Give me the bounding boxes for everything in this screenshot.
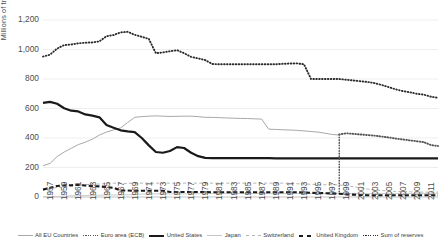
x-tick-label: 1967 bbox=[117, 182, 126, 200]
x-tick-label: 2007 bbox=[399, 182, 408, 200]
x-tick-label: 1985 bbox=[244, 182, 253, 200]
x-tick-label: 1973 bbox=[159, 182, 168, 200]
x-tick-label: 1999 bbox=[342, 182, 351, 200]
legend-label: Switzerland bbox=[263, 232, 293, 238]
x-tick-label: 1997 bbox=[328, 182, 337, 200]
x-tick-label: 1989 bbox=[272, 182, 281, 200]
legend-label: United States bbox=[167, 232, 202, 238]
line-solid-light-key bbox=[18, 232, 33, 238]
legend-item-all-eu-countries[interactable]: All EU Countries bbox=[18, 232, 79, 238]
legend-item-japan[interactable]: Japan bbox=[207, 232, 241, 238]
gold-reserves-chart: Millions of troy ounces 02004006008001,0… bbox=[0, 0, 441, 246]
legend-item-united-states[interactable]: United States bbox=[149, 232, 202, 238]
legend-item-sum-of-reserves[interactable]: Sum of reserves bbox=[363, 232, 423, 238]
line-dotted-key bbox=[363, 232, 378, 238]
x-tick-label: 1957 bbox=[46, 182, 55, 200]
legend-item-switzerland[interactable]: Switzerland bbox=[246, 232, 294, 238]
x-tick-label: 2005 bbox=[385, 182, 394, 200]
line-solid-thick-key bbox=[149, 232, 164, 238]
x-tick-label: 1983 bbox=[230, 182, 239, 200]
legend-label: United Kingdom bbox=[316, 232, 358, 238]
x-tick-label: 1963 bbox=[89, 182, 98, 200]
x-tick-label: 1993 bbox=[300, 182, 309, 200]
x-tick-label: 1965 bbox=[103, 182, 112, 200]
line-dashed-thick-key bbox=[299, 232, 314, 238]
legend-label: Sum of reserves bbox=[381, 232, 424, 238]
x-tick-label: 1979 bbox=[201, 182, 210, 200]
legend-item-united-kingdom[interactable]: United Kingdom bbox=[299, 232, 358, 238]
x-tick-label: 2011 bbox=[427, 182, 436, 200]
x-tick-label: 1959 bbox=[60, 182, 69, 200]
x-tick-label: 2001 bbox=[357, 182, 366, 200]
x-axis-tick-labels: 1957195919611963196519671969197119731975… bbox=[0, 0, 441, 246]
x-tick-label: 1977 bbox=[187, 182, 196, 200]
line-dotted-thick-key bbox=[83, 232, 98, 238]
line-dashed-light-key bbox=[246, 232, 261, 238]
x-tick-label: 2009 bbox=[413, 182, 422, 200]
x-tick-label: 1995 bbox=[314, 182, 323, 200]
line-solid-vlight-key bbox=[207, 232, 222, 238]
legend-label: All EU Countries bbox=[35, 232, 78, 238]
legend-item-euro-area-ecb[interactable]: Euro area (ECB) bbox=[83, 232, 144, 238]
legend-label: Euro area (ECB) bbox=[101, 232, 145, 238]
x-tick-label: 1971 bbox=[145, 182, 154, 200]
x-tick-label: 1969 bbox=[131, 182, 140, 200]
x-tick-label: 2003 bbox=[371, 182, 380, 200]
x-tick-label: 1961 bbox=[74, 182, 83, 200]
x-tick-label: 1975 bbox=[173, 182, 182, 200]
x-tick-label: 1981 bbox=[215, 182, 224, 200]
x-tick-label: 1987 bbox=[258, 182, 267, 200]
x-tick-label: 1991 bbox=[286, 182, 295, 200]
chart-legend: All EU CountriesEuro area (ECB)United St… bbox=[0, 228, 441, 242]
legend-label: Japan bbox=[225, 232, 241, 238]
